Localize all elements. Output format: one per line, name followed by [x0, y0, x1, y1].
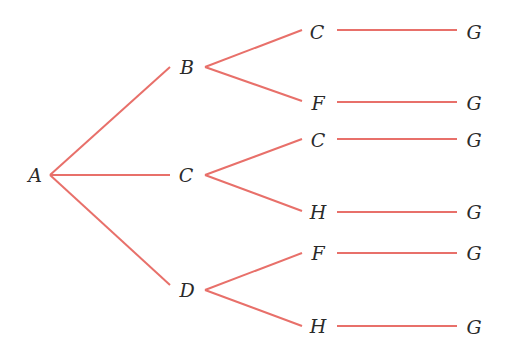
- tree-node-label: C: [310, 21, 325, 43]
- tree-node-label: G: [466, 242, 481, 264]
- tree-edge: [50, 175, 170, 285]
- tree-edge: [205, 175, 302, 211]
- tree-edge: [205, 30, 302, 67]
- tree-node-label: G: [466, 21, 481, 43]
- tree-diagram: ABCDCFCHFHGGGGGG: [0, 0, 518, 360]
- tree-node-label: B: [179, 56, 194, 78]
- tree-node-label: F: [310, 92, 325, 114]
- tree-node-label: G: [466, 92, 481, 114]
- tree-node-label: H: [309, 201, 327, 223]
- tree-nodes: ABCDCFCHFHGGGGGG: [26, 21, 481, 338]
- tree-node-label: G: [466, 129, 481, 151]
- tree-node-label: D: [178, 279, 194, 301]
- tree-edge: [50, 67, 170, 175]
- tree-node-label: G: [466, 201, 481, 223]
- tree-node-label: C: [311, 129, 326, 151]
- tree-edge: [205, 139, 302, 175]
- tree-node-label: H: [309, 315, 327, 337]
- tree-edge: [205, 290, 302, 326]
- tree-node-label: A: [26, 164, 42, 186]
- tree-edge: [205, 67, 302, 101]
- tree-edges: [50, 30, 457, 326]
- tree-edge: [205, 253, 302, 290]
- tree-node-label: F: [310, 242, 325, 264]
- tree-node-label: G: [466, 316, 481, 338]
- tree-node-label: C: [179, 164, 194, 186]
